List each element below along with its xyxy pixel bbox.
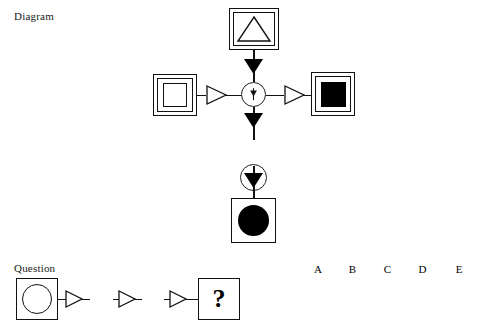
operator-arrowhead-center	[241, 82, 266, 107]
node-left-inner-frame	[157, 78, 193, 112]
square-open-icon	[163, 83, 187, 107]
circle-open-icon	[22, 284, 52, 314]
diagram-section-label: Diagram	[14, 10, 54, 22]
connector-line-mid-b	[253, 126, 254, 140]
diagram-node-left	[153, 74, 197, 116]
arrow-right-left-side	[205, 84, 227, 110]
question-connector-6	[185, 299, 199, 300]
answer-letter-b: B	[335, 263, 370, 275]
node-top-inner-frame	[233, 12, 275, 46]
square-filled-icon	[321, 82, 346, 107]
answer-letter-a: A	[301, 263, 335, 275]
question-arrow-1	[64, 289, 83, 313]
question-connector-2	[81, 299, 90, 300]
answer-letter-e: E	[440, 263, 478, 275]
connector-line-top-lower	[253, 72, 254, 82]
question-mark-glyph: ?	[213, 286, 226, 312]
answer-letter-c: C	[370, 263, 405, 275]
question-connector-4	[134, 299, 142, 300]
question-section-label: Question	[14, 262, 55, 274]
circle-filled-icon	[238, 205, 269, 236]
node-right-inner-frame	[315, 76, 351, 112]
answer-letter-d: D	[405, 263, 440, 275]
diagram-node-top	[229, 8, 279, 50]
question-item-open-circle-box	[16, 278, 58, 320]
small-down-arrowhead-icon	[247, 87, 260, 102]
diagram-node-right	[311, 72, 355, 116]
question-arrow-2	[117, 289, 136, 313]
triangle-open-icon	[235, 14, 273, 44]
arrow-right-right-side	[283, 84, 305, 110]
question-mark-box: ?	[198, 278, 240, 320]
diagram-node-bottom	[231, 198, 276, 243]
connector-line-right-a	[266, 95, 284, 96]
question-arrow-3	[168, 289, 187, 313]
